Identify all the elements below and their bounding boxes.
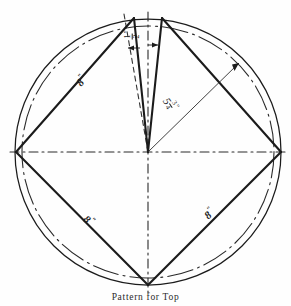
half-inch-fraction: 1 2 [124,34,141,40]
technical-drawing-svg [0,0,291,306]
half-inch-denominator: 2 [133,34,141,40]
half-inch-dimension-label: 1 2 " [124,30,142,39]
half-dim-arrow-left [128,46,134,51]
figure-caption: Pattern for Top [0,292,291,302]
pattern-edge-lower-left [16,152,148,285]
pattern-edge-lower-right [148,152,281,285]
radius-arrowhead [232,63,239,71]
wedge-edge-right [148,18,162,152]
pattern-for-top-figure: 1 2 " 5 3 4 " 8" 8" 8" Pattern for Top [0,0,291,306]
half-dim-arrow-right [152,43,158,48]
